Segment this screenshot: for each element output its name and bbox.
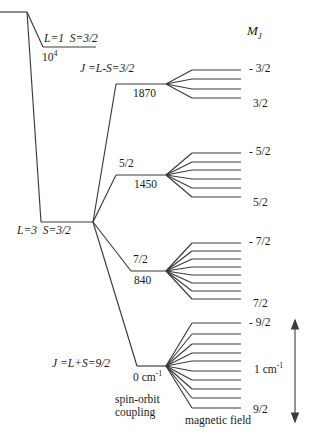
j-label-7-2: 7/2 <box>133 254 148 266</box>
column-header-mj: MJ <box>247 24 262 40</box>
j-energy-9-2: 0 cm-1 <box>133 370 162 383</box>
config-label-L1: L=1 S=3/2 <box>44 33 98 45</box>
j-energy-7-2: 840 <box>134 275 151 287</box>
mj-label-5-2-top: - 5/2 <box>249 146 270 158</box>
mj-label-7-2-bottom: 7/2 <box>253 298 268 310</box>
zeeman-fan-7-2-1 <box>166 243 192 271</box>
mj-label-9-2-bottom: 9/2 <box>253 404 268 416</box>
zeeman-fan-7-2-8 <box>166 271 192 299</box>
mj-label-3-2-top: - 3/2 <box>249 63 270 75</box>
spin-orbit-fan-9-2 <box>93 222 137 366</box>
j-energy-3-2: 1870 <box>133 88 156 100</box>
scale-arrow <box>292 320 299 422</box>
mj-label-7-2-top: - 7/2 <box>249 236 270 248</box>
config-label-L3: L=3 S=3/2 <box>17 225 71 237</box>
j-label-9-2: J =L+S=9/2 <box>52 358 110 370</box>
axis-label-spin-orbit: spin-orbit coupling <box>115 393 160 419</box>
zeeman-fan-9-2-10 <box>166 366 192 408</box>
axis-label-magnetic-field: magnetic field <box>185 415 251 427</box>
spin-orbit-fan-7-2 <box>93 222 131 271</box>
mj-label-5-2-bottom: 5/2 <box>253 197 268 209</box>
mj-label-9-2-top: - 9/2 <box>249 317 270 329</box>
config-energy-L1: 104 <box>42 50 57 63</box>
j-label-5-2: 5/2 <box>119 158 134 170</box>
j-energy-5-2: 1450 <box>134 179 157 191</box>
spin-orbit-fan-3-2 <box>93 84 116 222</box>
mj-label-3-2-bottom: 3/2 <box>253 98 268 110</box>
scale-bar-label: 1 cm-1 <box>254 362 283 375</box>
j-label-3-2: J =L-S=3/2 <box>80 63 134 75</box>
connector-to-L3-level <box>27 12 41 222</box>
